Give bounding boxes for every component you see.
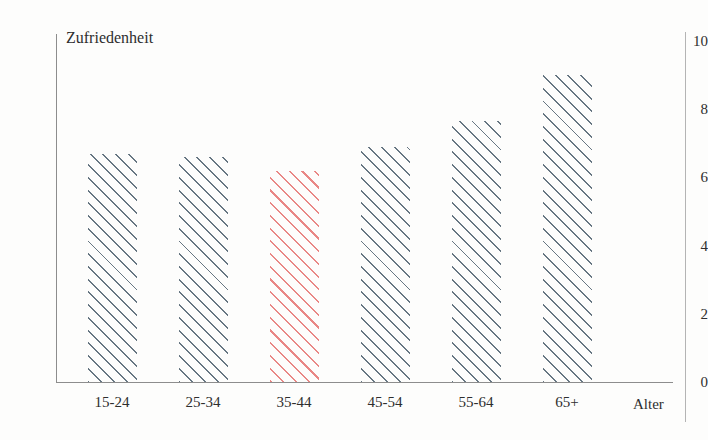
x-tick-label-65+: 65+ [555, 394, 578, 411]
y-tick-label: 6 [662, 169, 708, 186]
bar-65+[interactable] [543, 75, 592, 382]
y-tick-label: 4 [662, 237, 708, 254]
x-tick-label-25-34: 25-34 [186, 394, 221, 411]
y-tick-label: 2 [662, 305, 708, 322]
bar-chart-plot: 0246810 15-2425-3435-4445-5455-6465+ Zuf… [0, 0, 708, 440]
y-tick-label: 0 [662, 374, 708, 391]
x-axis-line [56, 382, 673, 383]
bar-35-44[interactable] [270, 171, 319, 382]
y-axis-line [56, 34, 57, 383]
x-tick-label-15-24: 15-24 [95, 394, 130, 411]
bar-55-64[interactable] [452, 121, 501, 382]
x-tick-label-55-64: 55-64 [459, 394, 494, 411]
y-tick-label: 8 [662, 101, 708, 118]
chart-page: 0246810 15-2425-3435-4445-5455-6465+ Zuf… [0, 0, 708, 440]
x-tick-label-45-54: 45-54 [368, 394, 403, 411]
x-axis-title: Alter [633, 396, 664, 413]
bar-45-54[interactable] [361, 147, 410, 382]
bar-15-24[interactable] [88, 154, 137, 382]
y-tick-label: 10 [662, 33, 708, 50]
x-tick-label-35-44: 35-44 [277, 394, 312, 411]
y-axis-title: Zufriedenheit [66, 29, 153, 47]
bar-25-34[interactable] [179, 157, 228, 382]
